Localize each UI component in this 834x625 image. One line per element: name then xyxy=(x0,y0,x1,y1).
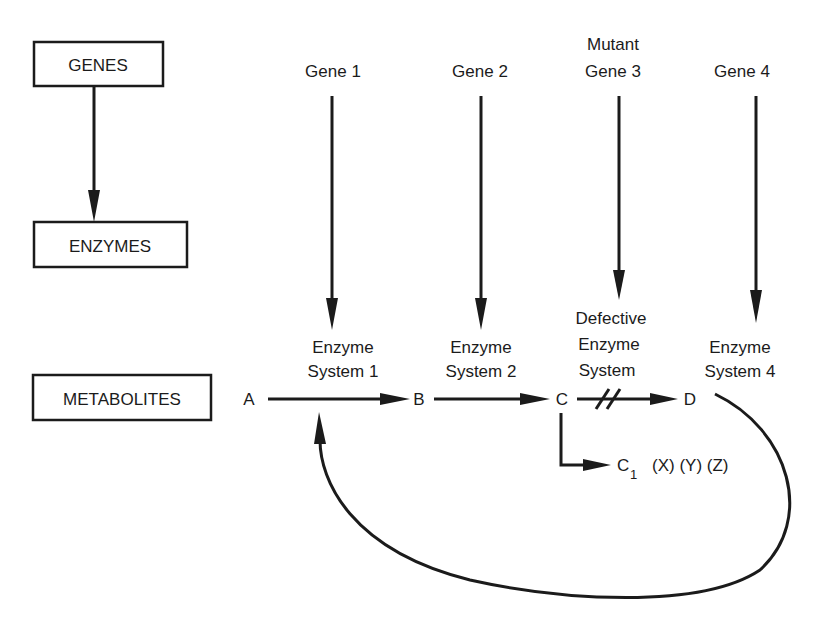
arrowhead-icon xyxy=(583,459,611,471)
gene-4-label: Gene 4 xyxy=(714,62,770,81)
gene-3-label: Gene 3 xyxy=(585,62,641,81)
arrowhead-icon xyxy=(750,290,762,323)
metabolite-b: B xyxy=(413,390,424,409)
metabolite-d: D xyxy=(684,390,696,409)
metabolite-c: C xyxy=(556,390,568,409)
gene-3-mutant-label: Mutant xyxy=(587,35,639,54)
feedback-inhibition-arrow xyxy=(320,394,790,598)
arrowhead-icon xyxy=(326,298,338,330)
metabolites-label: METABOLITES xyxy=(63,390,181,409)
arrowhead-icon xyxy=(650,393,678,405)
defective-enzyme-line3: System xyxy=(579,361,636,380)
pathway-diagram: GENES ENZYMES METABOLITES Gene 1 Gene 2 … xyxy=(0,0,834,625)
enzyme-1-line1: Enzyme xyxy=(312,338,373,357)
c-to-c1-arrow xyxy=(561,413,590,465)
side-products-label: (X) (Y) (Z) xyxy=(652,456,728,475)
genes-label: GENES xyxy=(68,56,128,75)
arrowhead-icon xyxy=(88,190,100,222)
defective-enzyme-line2: Enzyme xyxy=(578,335,639,354)
metabolite-c1-subscript: 1 xyxy=(630,467,637,482)
arrowhead-icon xyxy=(380,393,410,405)
enzymes-label: ENZYMES xyxy=(69,237,151,256)
enzyme-2-line2: System 2 xyxy=(446,362,517,381)
enzyme-4-line1: Enzyme xyxy=(709,338,770,357)
gene-2-label: Gene 2 xyxy=(452,62,508,81)
arrowhead-icon xyxy=(475,298,487,330)
arrowhead-icon xyxy=(613,270,625,300)
defective-enzyme-line1: Defective xyxy=(576,309,647,328)
arrowhead-icon xyxy=(314,412,326,444)
gene-1-label: Gene 1 xyxy=(305,62,361,81)
metabolite-a: A xyxy=(243,390,255,409)
enzyme-1-line2: System 1 xyxy=(308,362,379,381)
arrowhead-icon xyxy=(520,393,550,405)
enzyme-4-line2: System 4 xyxy=(705,362,776,381)
metabolite-c1: C xyxy=(617,456,629,475)
enzyme-2-line1: Enzyme xyxy=(450,338,511,357)
